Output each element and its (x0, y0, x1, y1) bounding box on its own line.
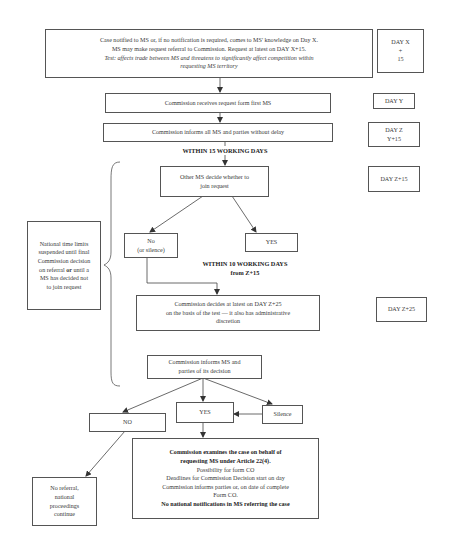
receives-text: Commission receives request form first M… (165, 99, 271, 108)
other-ms-line-2: join request (200, 182, 229, 191)
day-z15-text: DAY Z+15 (380, 175, 407, 184)
day-x-line-1: DAY X (391, 38, 409, 47)
receives-request-box: Commission receives request form first M… (105, 93, 331, 113)
day-z15-box: DAY Z+15 (368, 166, 420, 192)
informs-all-text: Commission informs all MS and parties wi… (152, 128, 284, 137)
start-line-1: Case notified to MS or, if no notificati… (100, 36, 318, 45)
commission-decides-box: Commission decides at latest on DAY Z+25… (136, 295, 320, 331)
curly-brace (104, 162, 120, 386)
arrow-no-to-no-referral (86, 431, 125, 476)
within-10-working-days-label: WITHIN 10 WORKING DAYS from Z+15 (180, 259, 310, 277)
day-z25-box: DAY Z+25 (376, 297, 427, 322)
arrow-decision-to-silence (203, 378, 272, 404)
test-line-1: Test: affects trade between MS and threa… (104, 54, 313, 63)
no-referral-box: No referral, national proceedings contin… (32, 477, 97, 526)
start-line-2: MS may make request referral to Commissi… (112, 45, 306, 54)
day-x-box: DAY X + 15 (377, 29, 424, 73)
day-z-line-2: Y+15 (387, 135, 401, 144)
commission-examines-box: Commission examines the case on behalf o… (132, 438, 319, 519)
other-ms-decide-box: Other MS decide whether to join request (160, 166, 269, 197)
day-x-line-2: + (399, 47, 402, 56)
day-z-box: DAY Z Y+15 (368, 122, 420, 147)
yes-box: YES (176, 402, 234, 423)
other-ms-line-1: Other MS decide whether to (180, 173, 249, 182)
day-z25-text: DAY Z+25 (388, 305, 415, 314)
silence-box: Silence (262, 405, 303, 424)
test-line-2: requesting MS territory (180, 62, 237, 71)
day-y-text: DAY Y (385, 97, 403, 106)
no-or-silence-box: No (or silence) (124, 233, 178, 258)
within-15-working-days-label: WITHIN 15 WORKING DAYS (150, 146, 300, 155)
national-time-limits-box: National time limits suspended until fin… (27, 221, 101, 310)
arrow-other-ms-to-no (150, 196, 203, 232)
informs-decision-box: Commission informs MS and parties of its… (147, 355, 262, 379)
arrow-other-ms-to-yes (232, 196, 256, 232)
national-limits-line-4: on referral or until a (39, 266, 89, 275)
day-y-box: DAY Y (373, 93, 415, 109)
informs-all-box: Commission informs all MS and parties wi… (103, 123, 333, 142)
yes-join-box: YES (245, 233, 298, 252)
day-x-line-3: 15 (397, 55, 403, 64)
no-box: NO (89, 413, 166, 432)
start-notification-box: Case notified to MS or, if no notificati… (45, 29, 373, 78)
day-z-line-1: DAY Z (385, 126, 403, 135)
